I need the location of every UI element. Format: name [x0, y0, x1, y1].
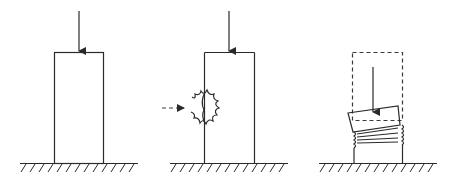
tilted-top-block — [348, 106, 400, 132]
column-stub — [354, 145, 403, 164]
original-outline-dashed — [353, 53, 403, 121]
panel-intact — [20, 11, 138, 172]
ground — [20, 164, 138, 173]
diagram-canvas — [0, 0, 452, 182]
ground — [170, 164, 288, 173]
panel-impact — [162, 11, 288, 172]
panel-collapse — [319, 53, 437, 173]
column — [55, 53, 104, 164]
ground — [319, 164, 437, 173]
column — [205, 53, 255, 164]
